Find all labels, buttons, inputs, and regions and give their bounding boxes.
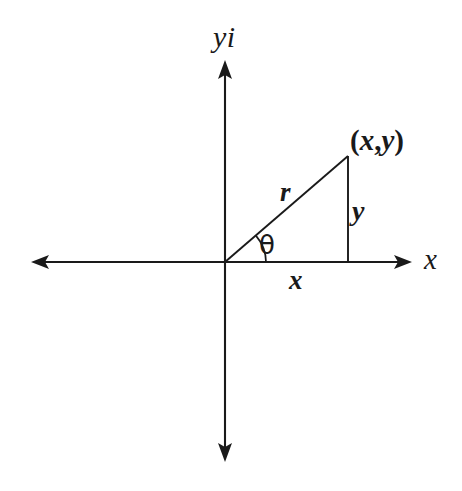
vertical-leg-label: y [352, 197, 364, 225]
point-label-y: y [381, 124, 394, 156]
angle-theta-label: θ [259, 232, 275, 258]
point-label-x: x [360, 124, 375, 156]
x-axis-label: x [424, 245, 437, 274]
figure-canvas: yi x (x,y) r y x θ [0, 0, 462, 491]
point-label: (x,y) [350, 126, 404, 155]
point-label-open-paren: ( [350, 124, 360, 156]
point-label-close-paren: ) [394, 124, 404, 156]
radius-label: r [280, 179, 291, 206]
x-axis [31, 255, 412, 269]
horizontal-leg-label: x [289, 267, 303, 294]
coordinate-diagram [0, 0, 462, 491]
hypotenuse-line [225, 156, 348, 262]
right-triangle [225, 156, 348, 262]
y-axis-label: yi [213, 22, 236, 52]
